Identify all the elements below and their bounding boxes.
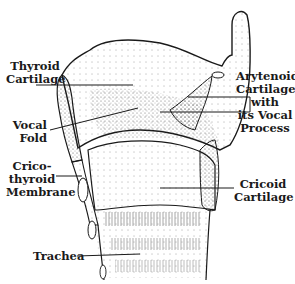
cricoid-cartilage-shape: [88, 141, 215, 210]
label-thyroid-cartilage: Thyroid Cartilage: [6, 60, 64, 86]
label-cricothyroid-membrane: Crico- thyroid Membrane: [6, 160, 58, 199]
arytenoid-notch: [212, 72, 224, 78]
label-line: Fold: [10, 132, 47, 145]
cricothyroid-oval-2: [88, 221, 96, 239]
label-line: Process: [236, 122, 294, 135]
label-vocal-fold: Vocal Fold: [10, 119, 47, 145]
cricothyroid-oval-1: [78, 178, 88, 202]
label-cricoid-cartilage: Cricoid Cartilage: [234, 178, 292, 204]
cricoid-right-band: [200, 140, 219, 211]
label-arytenoid-cartilage: Arytenoid Cartilage with its Vocal Proce…: [236, 70, 294, 135]
label-line: Membrane: [6, 186, 58, 199]
trachea-ring-hatch-2: [110, 238, 200, 250]
trachea-oval: [100, 265, 106, 279]
label-line: Trachea: [33, 250, 84, 263]
label-line: Cartilage: [6, 73, 64, 86]
trachea-ring-hatch-1: [105, 212, 200, 226]
label-line: Cartilage: [234, 191, 292, 204]
trachea-ring-hatch-3: [115, 260, 200, 272]
label-trachea: Trachea: [33, 250, 84, 263]
